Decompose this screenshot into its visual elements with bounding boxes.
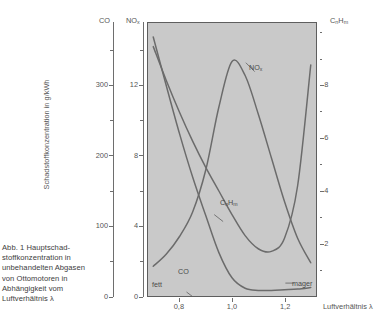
nox-tick bbox=[140, 50, 143, 51]
curve-label-leader-1 bbox=[214, 215, 223, 222]
cnhm-tick-label: 6 bbox=[324, 133, 328, 142]
y-axis-title: Schadstoffkonzentration in g/kWh bbox=[42, 45, 51, 225]
co-tick-label: 300 bbox=[87, 80, 108, 89]
co-tick bbox=[109, 85, 113, 86]
annotation-mager: mager bbox=[292, 279, 312, 288]
x-tick-label: 0,8 bbox=[167, 302, 191, 311]
nox-tick bbox=[139, 226, 143, 227]
figure-caption: Abb. 1 Hauptschad-stoffkonzentration in … bbox=[2, 243, 94, 304]
cnhm-tick bbox=[320, 217, 323, 218]
co-axis-header: CO bbox=[99, 16, 110, 25]
co-tick-label: 0 bbox=[87, 292, 108, 301]
cnhm-tick-label: 4 bbox=[324, 186, 328, 195]
x-axis-title: Luftverhältnis λ bbox=[323, 302, 373, 311]
curve-nox bbox=[153, 60, 311, 266]
co-tick-label: 200 bbox=[87, 151, 108, 160]
co-tick bbox=[110, 50, 113, 51]
cnhm-tick-label: 8 bbox=[324, 80, 328, 89]
nox-axis-header: NOx bbox=[126, 16, 140, 25]
nox-tick bbox=[139, 297, 143, 298]
nox-tick-label: 0 bbox=[117, 292, 138, 301]
nox-tick bbox=[140, 120, 143, 121]
nox-tick bbox=[139, 85, 143, 86]
curve-co bbox=[153, 37, 311, 291]
co-tick bbox=[110, 120, 113, 121]
cnhm-tick bbox=[320, 59, 323, 60]
co-tick-label: 100 bbox=[87, 221, 108, 230]
nox-tick-label: 12 bbox=[117, 80, 138, 89]
cnhm-tick bbox=[320, 191, 324, 192]
cnhm-tick-label: 2 bbox=[324, 239, 328, 248]
cnhm-tick bbox=[320, 244, 324, 245]
curve-label-cnhm: CnHm bbox=[220, 198, 238, 207]
cnhm-tick bbox=[320, 138, 324, 139]
cnhm-tick bbox=[320, 111, 323, 112]
nox-tick bbox=[140, 261, 143, 262]
curve-label-co: CO bbox=[178, 267, 189, 276]
nox-axis-line bbox=[143, 22, 144, 297]
cnhm-tick bbox=[320, 164, 323, 165]
curve-label-leader-2 bbox=[187, 292, 195, 296]
co-tick bbox=[110, 191, 113, 192]
co-tick bbox=[109, 226, 113, 227]
x-tick-label: 1,0 bbox=[220, 302, 244, 311]
curve-cnhm bbox=[153, 47, 311, 252]
cnhm-tick bbox=[320, 32, 323, 33]
nox-tick-label: 8 bbox=[117, 151, 138, 160]
co-tick bbox=[109, 155, 113, 156]
curve-label-nox: NOx bbox=[249, 63, 262, 72]
cnhm-axis-header: CnHm bbox=[330, 16, 348, 25]
cnhm-tick bbox=[320, 85, 324, 86]
cnhm-tick bbox=[320, 270, 323, 271]
chart-plot-area bbox=[147, 22, 317, 297]
chart-curves bbox=[148, 23, 316, 296]
co-axis-line bbox=[113, 22, 114, 297]
annotation-fett: fett bbox=[152, 280, 162, 289]
nox-tick bbox=[139, 155, 143, 156]
co-tick bbox=[110, 261, 113, 262]
nox-tick bbox=[140, 191, 143, 192]
co-tick bbox=[109, 297, 113, 298]
x-tick-label: 1,2 bbox=[273, 302, 297, 311]
nox-tick-label: 4 bbox=[117, 221, 138, 230]
